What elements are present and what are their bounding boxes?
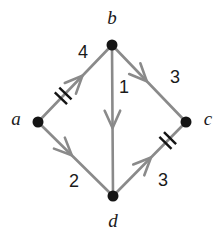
edge-weight-label-d-c: 3: [158, 170, 168, 190]
node-label-d: d: [108, 210, 118, 231]
graph-node-c: [181, 117, 192, 128]
edge-line: [112, 45, 113, 196]
graph-figure: 43123 bacd: [0, 0, 222, 245]
node-label-b: b: [107, 7, 117, 28]
node-label-c: c: [204, 108, 213, 129]
graph-canvas: 43123 bacd: [0, 0, 222, 245]
node-label-a: a: [11, 108, 21, 129]
graph-edge-a-b: [38, 45, 112, 122]
graph-node-d: [108, 191, 119, 202]
edge-weight-label-a-b: 4: [78, 42, 88, 62]
graph-edge-d-c: [113, 122, 186, 196]
edge-weight-label-b-d: 1: [119, 77, 129, 97]
edge-weight-label-a-d: 2: [69, 171, 79, 191]
graph-edge-b-d: [105, 45, 120, 196]
edge-line: [38, 45, 112, 122]
edge-weight-label-b-c: 3: [170, 67, 180, 87]
graph-node-b: [107, 40, 118, 51]
graph-node-a: [33, 117, 44, 128]
